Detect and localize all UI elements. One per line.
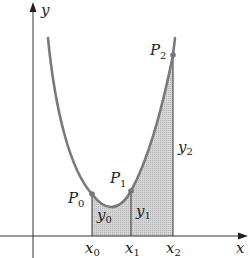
y-axis-label: y (40, 1, 50, 19)
label-p1: P1 (109, 169, 126, 189)
point-p1 (128, 188, 134, 194)
point-p0 (89, 191, 95, 197)
label-x2: x2 (166, 239, 181, 258)
point-p2 (170, 52, 176, 58)
label-p0: P0 (67, 189, 84, 209)
label-x0: x0 (85, 239, 100, 258)
label-y2: y2 (177, 138, 193, 157)
label-x1: x1 (125, 239, 140, 258)
parabola-area-diagram: y x P0 P1 P2 y0 y1 y2 x0 x1 x2 (0, 0, 250, 258)
x-axis-label: x (236, 239, 245, 257)
label-p2: P2 (149, 41, 166, 61)
y-axis-arrow-icon (30, 2, 37, 12)
